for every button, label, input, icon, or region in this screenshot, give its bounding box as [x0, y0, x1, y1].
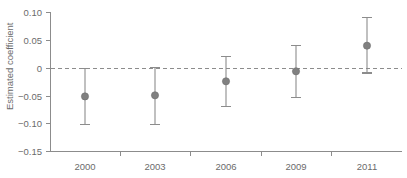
estimated-coefficient-chart: 0.10 0.05 0 −0.05 −0.10 −0.15 2000 2003 …: [0, 0, 407, 178]
x-tick-label-2000: 2000: [74, 161, 95, 172]
x-tick-label-2006: 2006: [215, 161, 236, 172]
y-tick-label-1: 0.05: [24, 35, 43, 46]
x-tick-label-2011: 2011: [357, 161, 377, 172]
y-tick-label-0: 0.10: [24, 7, 43, 18]
x-tick-label-2003: 2003: [144, 161, 165, 172]
y-axis-title: Estimated coefficient: [4, 22, 15, 110]
y-tick-label-5: −0.15: [18, 146, 42, 157]
data-point-2003: [151, 92, 158, 99]
data-point-2000: [81, 93, 88, 100]
data-point-2011: [363, 42, 370, 49]
chart-figure: 0.10 0.05 0 −0.05 −0.10 −0.15 2000 2003 …: [0, 0, 407, 178]
y-tick-label-2: 0: [37, 63, 42, 74]
x-tick-label-2009: 2009: [285, 161, 306, 172]
y-tick-label-3: −0.05: [18, 91, 42, 102]
data-point-2006: [222, 78, 229, 85]
data-point-2009: [292, 68, 299, 75]
y-tick-label-4: −0.10: [18, 118, 42, 129]
